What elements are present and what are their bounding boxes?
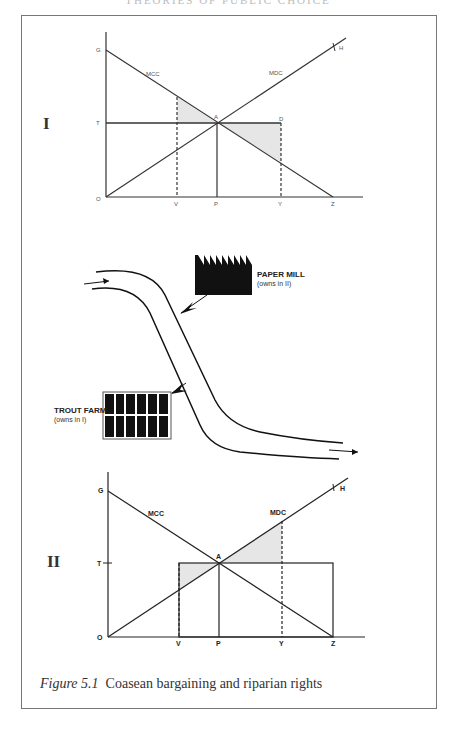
label-mcc: MCC: [146, 71, 160, 77]
label-p: P: [214, 201, 218, 207]
paper-mill-note: (owns in II): [257, 280, 291, 288]
flow-arrowhead-out: [352, 449, 358, 455]
label-mcc: MCC: [148, 510, 164, 517]
panel-II-labels: G T O V P Y Z A H MCC MDC: [97, 485, 345, 647]
figure-label: Figure 5.1: [40, 676, 99, 691]
caption-text: Coasean bargaining and riparian rights: [106, 676, 323, 691]
paper-mill-icon: [180, 255, 252, 314]
panel-I: [106, 32, 363, 197]
label-t: T: [96, 120, 100, 126]
trout-farm-icon: [103, 383, 187, 439]
mdc-line: [106, 38, 346, 197]
label-t: T: [97, 560, 102, 567]
label-d: D: [279, 116, 284, 122]
label-y: Y: [279, 640, 284, 647]
label-p: P: [216, 640, 221, 647]
label-z: Z: [331, 201, 335, 207]
mdc-line: [108, 478, 348, 637]
label-g: G: [96, 47, 101, 53]
label-z: Z: [331, 640, 336, 647]
figure-diagram: G T O V P Y Z A D H MCC MDC I PAPER MILL…: [0, 0, 456, 730]
intake-arrow-icon: [171, 383, 187, 394]
label-g: G: [98, 487, 104, 494]
label-mdc: MDC: [269, 70, 283, 76]
paper-mill-label: PAPER MILL: [257, 270, 305, 279]
label-h: H: [340, 485, 345, 492]
label-o: O: [97, 634, 103, 641]
flow-arrowhead-in: [103, 278, 109, 284]
label-o: O: [96, 196, 101, 202]
label-h: H: [339, 45, 343, 51]
shaded-area-left: [177, 97, 217, 123]
panel-II: [103, 472, 365, 637]
panel-I-numeral: I: [43, 114, 50, 133]
label-a: A: [216, 553, 221, 560]
trout-farm-note: (owns in I): [54, 416, 86, 424]
label-v: V: [174, 201, 178, 207]
panel-II-numeral: II: [47, 552, 61, 571]
label-y: Y: [278, 201, 282, 207]
label-v: V: [176, 640, 181, 647]
h-tick: [333, 484, 334, 491]
label-mdc: MDC: [270, 509, 286, 516]
label-a: A: [214, 114, 218, 120]
figure-caption: Figure 5.1 Coasean bargaining and ripari…: [40, 676, 322, 692]
panel-I-labels: G T O V P Y Z A D H MCC MDC: [96, 45, 343, 207]
trout-farm-label: TROUT FARM: [54, 406, 107, 415]
